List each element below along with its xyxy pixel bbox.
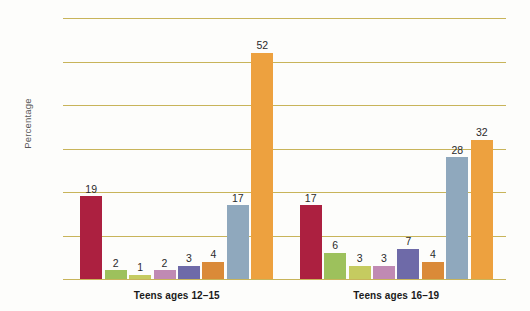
bar-value-label: 1 xyxy=(137,261,143,273)
bar-value-label: 28 xyxy=(451,144,463,156)
bar-value-label: 52 xyxy=(256,39,268,51)
bar: 28 xyxy=(446,157,468,279)
bar: 3 xyxy=(373,266,395,279)
bar-chart: Percentage 0102030405060 192123417521763… xyxy=(0,0,530,311)
bar-value-label: 32 xyxy=(476,126,488,138)
bar: 3 xyxy=(178,266,200,279)
bar-value-label: 17 xyxy=(305,192,317,204)
gridline-0 xyxy=(63,279,506,280)
bar: 19 xyxy=(80,196,102,279)
bar: 3 xyxy=(349,266,371,279)
bar: 32 xyxy=(471,140,493,279)
y-axis-title: Percentage xyxy=(22,69,33,179)
bar-value-label: 3 xyxy=(186,252,192,264)
bars-layer: 1921234175217633742832 xyxy=(63,18,506,279)
bar: 17 xyxy=(300,205,322,279)
bar: 4 xyxy=(202,262,224,279)
bar: 52 xyxy=(251,53,273,279)
bar-value-label: 6 xyxy=(332,239,338,251)
group-label: Teens ages 12–15 xyxy=(134,290,220,301)
group-label: Teens ages 16–19 xyxy=(353,290,439,301)
bar: 4 xyxy=(422,262,444,279)
bar: 17 xyxy=(227,205,249,279)
bar: 1 xyxy=(129,275,151,279)
bar: 2 xyxy=(154,270,176,279)
plot-area: 0102030405060 1921234175217633742832 xyxy=(63,18,506,279)
bar-value-label: 3 xyxy=(357,252,363,264)
bar: 2 xyxy=(105,270,127,279)
bar: 7 xyxy=(397,249,419,279)
bar: 6 xyxy=(324,253,346,279)
bar-value-label: 19 xyxy=(85,183,97,195)
bar-value-label: 7 xyxy=(406,235,412,247)
bar-value-label: 4 xyxy=(210,248,216,260)
bar-value-label: 3 xyxy=(381,252,387,264)
bar-value-label: 4 xyxy=(430,248,436,260)
bar-value-label: 2 xyxy=(162,257,168,269)
bar-value-label: 17 xyxy=(232,192,244,204)
bar-value-label: 2 xyxy=(113,257,119,269)
